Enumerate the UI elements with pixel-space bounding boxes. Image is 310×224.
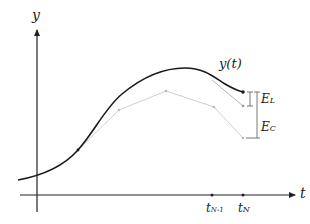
curve-label: y(t) <box>219 57 242 70</box>
error-sub: L <box>270 96 275 105</box>
tick-sub: N <box>243 205 250 214</box>
approx-polyline-coarse <box>78 91 243 150</box>
y-axis-label: y <box>32 8 40 22</box>
tick-label-t-n-minus-1: tN-1 <box>206 202 224 214</box>
error-base: E <box>261 120 270 134</box>
approx-point <box>242 137 245 140</box>
approx-point <box>118 109 121 112</box>
approx-point <box>165 90 168 93</box>
x-axis-label: t <box>300 186 306 200</box>
tick-sub: N-1 <box>211 206 224 214</box>
error-sub: C <box>270 124 276 133</box>
diagram-canvas <box>0 0 310 224</box>
tick-t-n-minus-1 <box>211 194 214 197</box>
approx-segment-local <box>212 80 243 106</box>
error-base: E <box>261 92 270 106</box>
tick-t-n <box>242 194 245 197</box>
error-local-label: EL <box>261 93 275 105</box>
tick-label-t-n: tN <box>238 202 250 214</box>
approx-point <box>213 106 216 109</box>
curve-point-end <box>241 90 245 94</box>
error-coarse-label: EC <box>261 121 276 133</box>
approx-point-local <box>242 105 245 108</box>
exact-curve <box>18 68 243 180</box>
curve-point <box>77 149 80 152</box>
